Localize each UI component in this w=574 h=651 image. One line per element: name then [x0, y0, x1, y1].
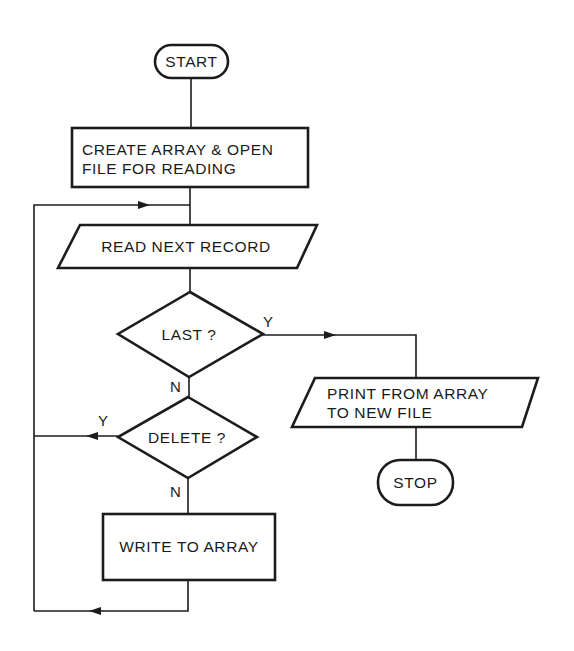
node-write-label: WRITE TO ARRAY	[119, 538, 258, 555]
edge-last-to-print	[263, 335, 416, 378]
flowchart-diagram: START CREATE ARRAY & OPEN FILE FOR READI…	[0, 0, 574, 651]
node-last-label: LAST ?	[161, 326, 216, 343]
node-start-label: START	[165, 53, 217, 70]
arrow-left-icon	[89, 607, 101, 615]
node-create-label-line2: FILE FOR READING	[82, 160, 236, 177]
branch-label-delete-yes: Y	[98, 412, 108, 429]
node-stop: STOP	[378, 460, 453, 505]
branch-label-delete-no: N	[170, 483, 181, 500]
node-create-label-line1: CREATE ARRAY & OPEN	[82, 141, 273, 158]
node-write: WRITE TO ARRAY	[103, 514, 275, 580]
edge-write-to-loop	[34, 580, 188, 611]
node-stop-label: STOP	[393, 474, 437, 491]
node-delete: DELETE ?	[118, 397, 257, 478]
arrow-right-icon	[138, 201, 150, 209]
node-start: START	[155, 45, 228, 78]
branch-label-last-no: N	[170, 378, 181, 395]
node-read-label: READ NEXT RECORD	[101, 238, 271, 255]
branch-label-last-yes: Y	[263, 313, 273, 330]
arrow-left-icon	[86, 432, 98, 440]
node-print-label-line1: PRINT FROM ARRAY	[327, 385, 488, 402]
node-create: CREATE ARRAY & OPEN FILE FOR READING	[72, 128, 308, 187]
node-last: LAST ?	[118, 292, 263, 377]
node-read: READ NEXT RECORD	[58, 225, 317, 268]
node-print: PRINT FROM ARRAY TO NEW FILE	[292, 378, 538, 427]
node-delete-label: DELETE ?	[148, 429, 226, 446]
node-print-label-line2: TO NEW FILE	[327, 404, 432, 421]
arrow-right-icon	[324, 331, 336, 339]
